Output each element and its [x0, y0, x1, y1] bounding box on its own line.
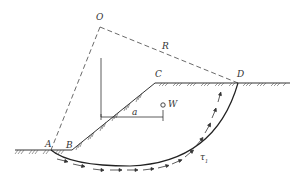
label-R: R [162, 42, 169, 51]
weight-centroid-icon [161, 103, 165, 107]
shear-arrows [57, 92, 221, 172]
tau-subscript: 1 [205, 158, 208, 164]
label-B: B [66, 141, 73, 150]
slope-diagram [0, 0, 303, 183]
radius-line-OD [100, 27, 238, 83]
ground-profile [15, 83, 290, 150]
label-C: C [155, 70, 162, 79]
label-tau: τ1 [200, 153, 208, 164]
label-A: A [45, 140, 52, 149]
label-O: O [96, 13, 103, 22]
radius-line-OA [51, 27, 100, 150]
label-D: D [237, 70, 244, 79]
label-a: a [132, 108, 137, 117]
label-W: W [168, 100, 177, 109]
ground-hatching [15, 83, 286, 154]
